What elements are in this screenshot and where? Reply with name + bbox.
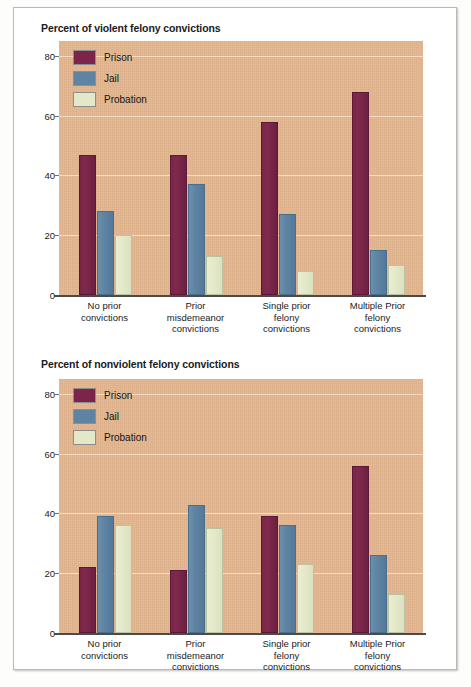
legend-label-prison: Prison: [104, 52, 132, 63]
x-tick-label-line: Single prior: [241, 638, 332, 650]
y-tick-label: 20: [17, 230, 55, 241]
bar-prison: [352, 466, 369, 633]
legend-item-probation: Probation: [73, 427, 147, 447]
x-tick-label-line: Single prior: [241, 300, 332, 312]
legend-item-jail: Jail: [73, 68, 147, 88]
x-tick-label-line: No prior: [59, 300, 150, 312]
x-tick-label-line: misdemeanor: [150, 650, 241, 662]
x-tick-label: Multiple Priorfelonyconvictions: [332, 638, 423, 673]
x-tick-label-line: convictions: [332, 323, 423, 335]
x-tick-label-line: convictions: [332, 661, 423, 673]
chart-title-violent: Percent of violent felony convictions: [41, 22, 221, 34]
legend-swatch-jail: [73, 71, 96, 86]
bar-jail: [188, 505, 205, 633]
x-axis-line-violent: [54, 295, 426, 297]
x-tick-label-line: convictions: [59, 312, 150, 324]
bar-probation: [206, 256, 223, 295]
bar-probation: [115, 235, 132, 295]
x-tick-label-line: convictions: [150, 323, 241, 335]
y-tick-label: 20: [17, 568, 55, 579]
bar-jail: [279, 525, 296, 633]
plot-area-violent: Prison Jail Probation: [59, 41, 423, 295]
bar-probation: [297, 564, 314, 633]
x-tick-label-line: No prior: [59, 638, 150, 650]
x-tick-label-line: convictions: [241, 661, 332, 673]
y-tick-label: 60: [17, 110, 55, 121]
x-tick-label-line: Multiple Prior: [332, 300, 423, 312]
legend-label-probation: Probation: [104, 94, 147, 105]
bar-prison: [170, 570, 187, 633]
figure-frame: Percent of violent felony convictions 02…: [13, 7, 457, 670]
chart-panel-violent: Percent of violent felony convictions 02…: [14, 8, 458, 348]
bar-prison: [170, 155, 187, 295]
legend-item-prison: Prison: [73, 385, 147, 405]
bar-jail: [279, 214, 296, 295]
chart-panel-nonviolent: Percent of nonviolent felony convictions…: [14, 348, 458, 671]
bar-jail: [370, 555, 387, 633]
bar-prison: [261, 122, 278, 295]
legend-violent: Prison Jail Probation: [73, 47, 147, 110]
x-tick-label: Priormisdemeanorconvictions: [150, 638, 241, 673]
bar-jail: [370, 250, 387, 295]
bar-probation: [206, 528, 223, 633]
bar-jail: [97, 516, 114, 633]
legend-label-jail: Jail: [104, 411, 119, 422]
y-axis-nonviolent: 020406080: [14, 379, 55, 633]
bar-prison: [79, 155, 96, 295]
x-tick-label-line: convictions: [59, 650, 150, 662]
x-tick-label-line: felony: [332, 312, 423, 324]
x-tick-label: No priorconvictions: [59, 638, 150, 661]
y-tick-label: 40: [17, 170, 55, 181]
bar-prison: [352, 92, 369, 295]
x-tick-label: No priorconvictions: [59, 300, 150, 323]
y-tick-label: 0: [17, 290, 55, 301]
legend-label-jail: Jail: [104, 73, 119, 84]
bar-probation: [388, 594, 405, 633]
x-tick-label-line: Multiple Prior: [332, 638, 423, 650]
legend-swatch-prison: [73, 50, 96, 65]
x-tick-label-line: felony: [332, 650, 423, 662]
legend-nonviolent: Prison Jail Probation: [73, 385, 147, 448]
legend-item-probation: Probation: [73, 89, 147, 109]
legend-item-prison: Prison: [73, 47, 147, 67]
x-tick-label-line: felony: [241, 312, 332, 324]
legend-label-probation: Probation: [104, 432, 147, 443]
x-tick-label-line: misdemeanor: [150, 312, 241, 324]
x-tick-label: Single priorfelonyconvictions: [241, 300, 332, 335]
y-axis-violent: 020406080: [14, 41, 55, 295]
scanned-page: Percent of violent felony convictions 02…: [0, 0, 471, 687]
bar-prison: [79, 567, 96, 633]
legend-item-jail: Jail: [73, 406, 147, 426]
y-tick-label: 60: [17, 448, 55, 459]
y-tick-label: 80: [17, 50, 55, 61]
x-axis-line-nonviolent: [54, 633, 426, 635]
x-tick-label-line: convictions: [150, 661, 241, 673]
bar-prison: [261, 516, 278, 633]
x-tick-label: Single priorfelonyconvictions: [241, 638, 332, 673]
x-tick-label: Multiple Priorfelonyconvictions: [332, 300, 423, 335]
x-tick-label-line: convictions: [241, 323, 332, 335]
plot-area-nonviolent: Prison Jail Probation: [59, 379, 423, 633]
x-tick-label-line: felony: [241, 650, 332, 662]
bar-jail: [188, 184, 205, 295]
x-tick-label-line: Prior: [150, 638, 241, 650]
legend-swatch-jail: [73, 409, 96, 424]
legend-swatch-probation: [73, 430, 96, 445]
legend-swatch-prison: [73, 388, 96, 403]
bar-probation: [388, 265, 405, 295]
y-tick-label: 40: [17, 508, 55, 519]
bar-jail: [97, 211, 114, 295]
legend-swatch-probation: [73, 92, 96, 107]
y-tick-label: 0: [17, 628, 55, 639]
x-tick-label-line: Prior: [150, 300, 241, 312]
bar-probation: [297, 271, 314, 295]
x-tick-label: Priormisdemeanorconvictions: [150, 300, 241, 335]
legend-label-prison: Prison: [104, 390, 132, 401]
bar-probation: [115, 525, 132, 633]
chart-title-nonviolent: Percent of nonviolent felony convictions: [41, 358, 239, 370]
y-tick-label: 80: [17, 388, 55, 399]
